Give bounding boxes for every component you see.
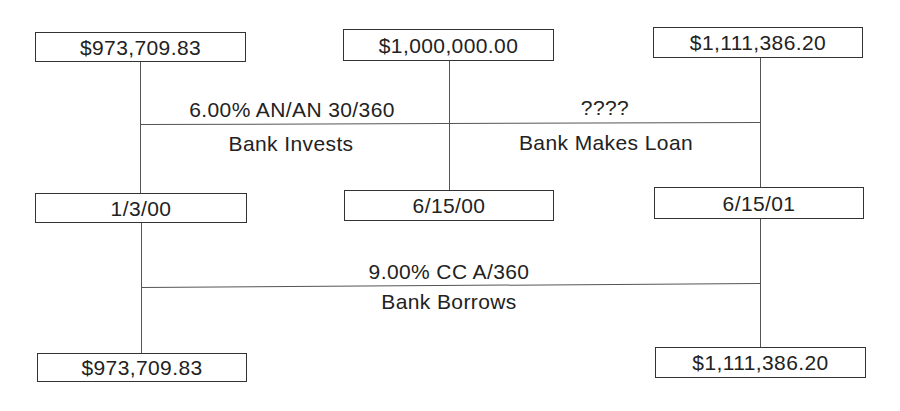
segment-1-rate: 6.00% AN/AN 30/360	[189, 99, 395, 120]
upper-start-amount-box: $973,709.83	[35, 32, 246, 62]
lower-end-amount: $1,111,386.20	[692, 352, 828, 373]
upper-end-amount: $1,111,386.20	[690, 32, 826, 53]
lower-start-amount-box: $973,709.83	[37, 353, 247, 382]
start-date-box: 1/3/00	[35, 193, 247, 223]
upper-start-amount: $973,709.83	[80, 37, 201, 58]
lower-start-amount: $973,709.83	[81, 357, 202, 378]
end-date-box: 6/15/01	[654, 187, 864, 219]
start-date: 1/3/00	[111, 198, 172, 219]
upper-mid-amount: $1,000,000.00	[379, 35, 519, 56]
connector-start-top	[140, 61, 141, 193]
lower-rate: 9.00% CC A/360	[369, 261, 530, 282]
lower-timeline-line	[141, 283, 760, 288]
segment-1-description: Bank Invests	[228, 133, 353, 154]
mid-date: 6/15/00	[413, 195, 486, 216]
lower-description: Bank Borrows	[381, 291, 517, 312]
connector-end-bottom	[760, 218, 761, 348]
lower-end-amount-box: $1,111,386.20	[655, 347, 866, 378]
upper-mid-amount-box: $1,000,000.00	[343, 29, 554, 61]
upper-end-amount-box: $1,111,386.20	[653, 27, 863, 58]
mid-date-box: 6/15/00	[344, 190, 554, 221]
end-date: 6/15/01	[723, 193, 796, 214]
connector-end-top	[760, 58, 761, 188]
connector-start-bottom	[141, 222, 142, 354]
segment-2-rate: ????	[581, 97, 629, 118]
connector-mid-top	[449, 61, 450, 191]
segment-2-description: Bank Makes Loan	[519, 132, 693, 153]
